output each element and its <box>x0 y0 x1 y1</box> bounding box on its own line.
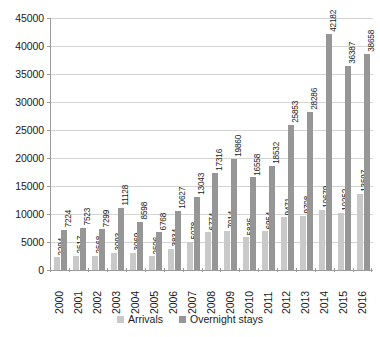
x-axis-tick-label: 2015 <box>338 272 349 314</box>
bar-group: 677417316 <box>203 18 222 270</box>
x-axis-tick-cell: 2013 <box>296 272 315 314</box>
bar-overnight-stays[interactable]: 16558 <box>250 18 256 270</box>
bar-group: 507813043 <box>184 18 203 270</box>
x-axis-tick-cell: 2001 <box>69 272 88 314</box>
y-axis-tick-label: 10000 <box>15 209 44 220</box>
bar-overnight-stays[interactable]: 25853 <box>288 18 294 270</box>
bar-value-label: 38658 <box>368 30 376 52</box>
bar-arrivals[interactable]: 5078 <box>187 18 193 270</box>
bar-group: 25066768 <box>146 18 165 270</box>
bar-rect <box>243 237 249 270</box>
bar-arrivals[interactable]: 2517 <box>73 18 79 270</box>
x-axis-tick-label: 2010 <box>244 272 255 314</box>
bar-overnight-stays[interactable]: 28286 <box>307 18 313 270</box>
bar-overnight-stays[interactable]: 36387 <box>345 18 351 270</box>
y-axis-tick-label: 0 <box>38 265 44 276</box>
bar-chart: 0500010000150002000025000300003500040000… <box>0 0 380 337</box>
x-axis-tick-cell: 2015 <box>334 272 353 314</box>
bar-rect <box>307 112 313 270</box>
x-axis-tick-label: 2013 <box>300 272 311 314</box>
x-axis-tick-label: 2002 <box>92 272 103 314</box>
bar-rect <box>345 66 351 270</box>
bar-overnight-stays[interactable]: 7523 <box>80 18 86 270</box>
x-axis-tick-mark <box>126 268 127 272</box>
bar-arrivals[interactable]: 10679 <box>319 18 325 270</box>
x-axis-tick-label: 2016 <box>357 272 368 314</box>
bar-arrivals[interactable]: 5835 <box>243 18 249 270</box>
legend-item[interactable]: Overnight stays <box>179 314 263 325</box>
bar-overnight-stays[interactable]: 38658 <box>364 18 370 270</box>
bar-rect <box>99 229 105 270</box>
x-axis-tick-label: 2009 <box>225 272 236 314</box>
x-axis-tick-mark <box>183 268 184 272</box>
x-axis-tick-cell: 2007 <box>183 272 202 314</box>
x-axis-tick-label: 2008 <box>206 272 217 314</box>
legend-swatch-icon <box>117 316 124 323</box>
y-axis-tick-label: 5000 <box>21 237 44 248</box>
bar-arrivals[interactable]: 2568 <box>92 18 98 270</box>
bar-overnight-stays[interactable]: 6768 <box>156 18 162 270</box>
x-axis-tick-cell: 2005 <box>145 272 164 314</box>
x-axis-tick-cell: 2014 <box>315 272 334 314</box>
bar-arrivals[interactable]: 3834 <box>168 18 174 270</box>
bar-rect <box>300 216 306 270</box>
bar-rect <box>137 222 143 270</box>
bar-rect <box>326 34 332 270</box>
bar-group: 947125853 <box>278 18 297 270</box>
bar-overnight-stays[interactable]: 19860 <box>231 18 237 270</box>
x-axis-tick-label: 2011 <box>263 272 274 314</box>
bar-arrivals[interactable]: 10252 <box>338 18 344 270</box>
bar-arrivals[interactable]: 6954 <box>262 18 268 270</box>
bar-rect <box>319 210 325 270</box>
bar-arrivals[interactable]: 7014 <box>224 18 230 270</box>
bar-arrivals[interactable]: 2506 <box>149 18 155 270</box>
x-axis-tick-mark <box>202 268 203 272</box>
bar-group: 30698598 <box>127 18 146 270</box>
x-axis-tick-cell: 2006 <box>164 272 183 314</box>
bar-overnight-stays[interactable]: 7224 <box>61 18 67 270</box>
bar-arrivals[interactable]: 2294 <box>54 18 60 270</box>
plot-area: 2294722425177523256872993093111283069859… <box>50 18 373 270</box>
bar-rect <box>149 256 155 270</box>
x-axis-tick-mark <box>164 268 165 272</box>
y-axis-tick-label: 20000 <box>15 153 44 164</box>
bar-rect <box>281 217 287 270</box>
bar-overnight-stays[interactable]: 17316 <box>212 18 218 270</box>
legend-label: Arrivals <box>128 314 163 325</box>
bar-rect <box>357 194 363 270</box>
x-axis-tick-label: 2005 <box>149 272 160 314</box>
bar-group: 583516558 <box>240 18 259 270</box>
x-axis-tick-mark <box>315 268 316 272</box>
bar-arrivals[interactable]: 9471 <box>281 18 287 270</box>
x-axis-tick-cell: 2002 <box>88 272 107 314</box>
chart-plot-wrapper: 0500010000150002000025000300003500040000… <box>0 0 380 337</box>
bar-overnight-stays[interactable]: 7299 <box>99 18 105 270</box>
bar-group: 1025236387 <box>335 18 354 270</box>
bar-arrivals[interactable]: 3069 <box>130 18 136 270</box>
bar-group: 383410627 <box>165 18 184 270</box>
bar-overnight-stays[interactable]: 18532 <box>269 18 275 270</box>
bar-arrivals[interactable]: 13597 <box>357 18 363 270</box>
bar-rect <box>111 253 117 270</box>
x-axis-tick-label: 2006 <box>168 272 179 314</box>
y-axis-tick-label: 40000 <box>15 41 44 52</box>
y-axis-tick-label: 30000 <box>15 97 44 108</box>
bar-arrivals[interactable]: 3093 <box>111 18 117 270</box>
bar-group: 970828286 <box>297 18 316 270</box>
bar-group: 309311128 <box>108 18 127 270</box>
bar-rect <box>130 253 136 270</box>
x-axis-tick-cell: 2012 <box>277 272 296 314</box>
bar-overnight-stays[interactable]: 10627 <box>175 18 181 270</box>
bar-overnight-stays[interactable]: 8598 <box>137 18 143 270</box>
bar-arrivals[interactable]: 9708 <box>300 18 306 270</box>
legend-item[interactable]: Arrivals <box>117 314 163 325</box>
bar-arrivals[interactable]: 6774 <box>205 18 211 270</box>
y-axis-tick-label: 35000 <box>15 69 44 80</box>
bar-rect <box>194 197 200 270</box>
bar-overnight-stays[interactable]: 11128 <box>118 18 124 270</box>
bar-overnight-stays[interactable]: 13043 <box>194 18 200 270</box>
x-axis-tick-labels: 2000200120022003200420052006200720082009… <box>50 272 372 314</box>
x-axis-tick-mark <box>277 268 278 272</box>
bar-overnight-stays[interactable]: 42182 <box>326 18 332 270</box>
bar-rect <box>364 54 370 270</box>
